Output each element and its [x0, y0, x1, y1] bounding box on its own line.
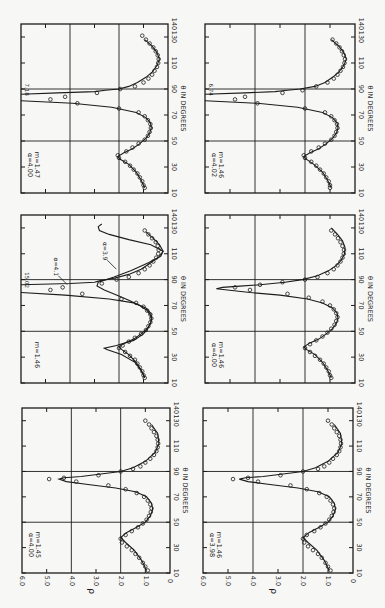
rho-tick-label: 3.0: [274, 576, 282, 586]
scattering-figure: 1030507090110130140θ IN DEGREESm=1.47α=4…: [0, 0, 385, 608]
theta-tick-label: 110: [170, 57, 178, 69]
curve-label: α=4.1: [53, 257, 60, 276]
theta-tick-label: 30: [357, 353, 365, 361]
theta-tick-label: 30: [355, 543, 363, 551]
rho-tick-label: 5.0: [43, 576, 51, 586]
theory-curve: [205, 40, 346, 95]
theta-tick-label: 30: [172, 543, 180, 551]
plot-frame: [205, 215, 355, 383]
theta-tick-label: 140: [170, 209, 178, 221]
data-point: [137, 271, 141, 275]
theta-tick-label: 10: [170, 189, 178, 197]
rho-tick-label: 2.0: [117, 576, 125, 586]
rho-tick-label: 4.0: [68, 576, 76, 586]
plot-frame: [203, 408, 353, 573]
theory-curve: [21, 232, 163, 285]
rho-tick-label: 4.0: [249, 576, 257, 586]
data-point: [150, 73, 154, 77]
theta-tick-label: 110: [357, 248, 365, 260]
theta-tick-label: 70: [355, 493, 363, 501]
theta-tick-label: 50: [170, 327, 178, 335]
theta-tick-label: 110: [357, 57, 365, 69]
data-point: [332, 77, 336, 81]
theta-tick-label: 140: [172, 402, 180, 414]
rho-axis-label: ρ: [269, 588, 279, 594]
theta-tick-label: 130: [357, 222, 365, 234]
rho-tick-label: 0: [166, 579, 174, 583]
data-point: [248, 288, 252, 292]
theta-tick-label: 10: [172, 569, 180, 577]
data-point: [49, 288, 53, 292]
theta-axis-label: θ IN DEGREES: [364, 468, 372, 514]
data-point: [156, 244, 160, 248]
theta-tick-label: 140: [357, 18, 365, 30]
rho-tick-label: 1.0: [142, 576, 150, 586]
data-point: [335, 430, 339, 434]
rho-tick-label: 0: [349, 579, 357, 583]
plot-frame: [21, 24, 168, 193]
data-point: [326, 419, 330, 423]
theory-curve: [239, 425, 341, 571]
theory-curve: [59, 425, 159, 571]
theta-tick-label: 70: [172, 493, 180, 501]
theta-tick-label: 90: [170, 85, 178, 93]
data-point: [127, 275, 131, 279]
data-point: [156, 252, 160, 256]
theta-tick-label: 90: [355, 467, 363, 475]
peak-value-label: 7.18: [23, 83, 29, 96]
parameter-label: α=3.98: [208, 533, 216, 557]
chart-panel-2: 1030507090110130140θ IN DEGREESm=1.46α=4…: [205, 18, 374, 197]
curve-label: α=3.9: [102, 242, 109, 261]
data-point: [139, 465, 143, 469]
parameter-label: α=4.00: [26, 153, 34, 177]
data-point: [49, 98, 53, 102]
data-point: [152, 430, 156, 434]
rho-tick-label: 6.0: [18, 576, 26, 586]
theta-tick-label: 140: [355, 402, 363, 414]
data-point: [142, 81, 146, 85]
data-point: [327, 461, 331, 465]
theta-axis-label: θ IN DEGREES: [366, 86, 374, 132]
theta-tick-label: 110: [172, 440, 180, 452]
data-point: [61, 286, 65, 290]
theta-tick-label: 30: [357, 163, 365, 171]
data-point: [243, 95, 247, 99]
theta-tick-label: 70: [170, 301, 178, 309]
theta-tick-label: 50: [170, 137, 178, 145]
data-point: [63, 95, 67, 99]
theta-axis-label: θ IN DEGREES: [179, 86, 187, 132]
parameter-label: m=1.46: [33, 342, 41, 368]
data-point: [130, 548, 134, 552]
theta-tick-label: 90: [357, 275, 365, 283]
rho-tick-label: 5.0: [224, 576, 232, 586]
theory-curve: [21, 40, 159, 95]
theta-tick-label: 140: [170, 18, 178, 30]
data-point: [144, 419, 148, 423]
data-point: [332, 427, 336, 431]
data-point: [231, 477, 235, 481]
theta-tick-label: 90: [170, 275, 178, 283]
rho-axis-label: ρ: [87, 588, 97, 594]
theta-tick-label: 130: [170, 31, 178, 43]
peak-value-label: 6.74: [207, 83, 213, 96]
chart-panel-6: 1030507090110130140θ IN DEGREES6.05.04.0…: [199, 402, 372, 594]
theory-curve: [216, 228, 345, 378]
theta-axis-label: θ IN DEGREES: [366, 276, 374, 322]
theta-axis-label: θ IN DEGREES: [181, 468, 189, 514]
rho-tick-label: 1.0: [324, 576, 332, 586]
chart-panel-5: 1030507090110130140θ IN DEGREES6.05.04.0…: [18, 402, 189, 594]
theta-tick-label: 130: [172, 414, 180, 426]
data-point: [140, 34, 144, 38]
theta-tick-label: 140: [357, 209, 365, 221]
theta-tick-label: 130: [357, 31, 365, 43]
data-point: [100, 282, 104, 286]
theta-tick-label: 70: [357, 111, 365, 119]
data-point: [332, 267, 336, 271]
data-point: [281, 91, 285, 95]
theta-tick-label: 10: [355, 569, 363, 577]
data-point: [80, 292, 84, 296]
data-point: [316, 467, 320, 471]
data-point: [143, 229, 147, 233]
data-point: [125, 545, 129, 549]
theta-tick-label: 130: [355, 414, 363, 426]
